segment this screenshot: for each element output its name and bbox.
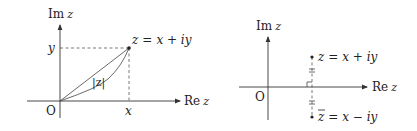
right-point-zbar: [310, 115, 313, 118]
right-imag-axis-label: Imz: [256, 19, 281, 33]
left-point-label: z=x + iy: [131, 33, 192, 47]
left-y-tick-label: y: [47, 41, 55, 55]
diagram-canvas: Imz Rez O y x |z| z=x + iy: [0, 0, 417, 131]
left-figure: Imz Rez O y x |z| z=x + iy: [27, 7, 209, 118]
left-point-z: [127, 46, 131, 50]
left-modulus-line: [60, 48, 129, 101]
right-point-z: [310, 55, 313, 58]
right-origin-label: O: [255, 90, 265, 104]
right-top-point-label: z= x + iy: [317, 50, 377, 64]
left-imag-axis-label: Imz: [48, 7, 73, 21]
complex-plane-diagrams: Imz Rez O y x |z| z=x + iy: [0, 0, 417, 131]
left-real-axis-label: Rez: [184, 94, 209, 108]
left-modulus-label: |z|: [92, 76, 105, 90]
left-x-tick-label: x: [125, 104, 132, 118]
right-figure: Imz Rez O z= x + iy: [239, 19, 397, 124]
left-origin-label: O: [46, 104, 56, 118]
right-real-axis-label: Rez: [372, 80, 397, 94]
right-angle-icon: [307, 82, 312, 87]
right-bottom-point-label: z= x − iy: [317, 110, 377, 124]
